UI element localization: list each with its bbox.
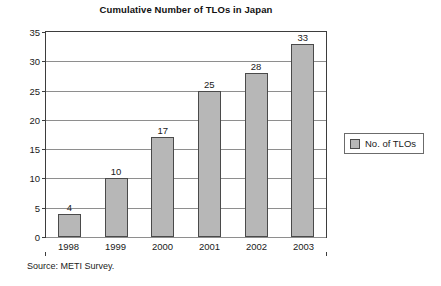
x-axis-tick-label: 1999 — [92, 241, 139, 252]
bar: 25 — [198, 91, 221, 237]
y-axis-tick-label: 5 — [35, 202, 40, 213]
plot-area: 05101520253035 41017252833 — [45, 31, 327, 238]
gridline — [46, 237, 326, 238]
legend-entry-label: No. of TLOs — [365, 138, 416, 149]
chart-legend: No. of TLOs — [344, 133, 424, 154]
x-axis-tick-label: 1998 — [45, 241, 92, 252]
y-axis-tick-label: 25 — [29, 85, 40, 96]
bar-slot: 10 — [93, 32, 140, 237]
x-axis: 199819992000200120022003 — [45, 241, 327, 252]
y-axis-tick-mark — [42, 237, 46, 238]
bar: 17 — [151, 137, 174, 237]
y-axis-tick-label: 0 — [35, 232, 40, 243]
x-axis-tick-label: 2003 — [280, 241, 327, 252]
y-axis-tick-label: 15 — [29, 144, 40, 155]
chart-title: Cumulative Number of TLOs in Japan — [45, 4, 327, 15]
bar: 4 — [58, 214, 81, 237]
bar-value-label: 33 — [297, 32, 308, 43]
bar: 10 — [105, 178, 128, 237]
x-axis-tick-label: 2000 — [139, 241, 186, 252]
bar-slot: 25 — [186, 32, 233, 237]
legend-swatch-icon — [350, 139, 360, 149]
bar-value-label: 28 — [251, 61, 262, 72]
x-axis-tick-mark — [45, 252, 46, 256]
bar-slot: 28 — [233, 32, 280, 237]
bar-value-label: 25 — [204, 79, 215, 90]
bar: 33 — [291, 44, 314, 237]
y-axis-tick-label: 10 — [29, 173, 40, 184]
y-axis-tick-label: 35 — [29, 27, 40, 38]
bar-slot: 17 — [139, 32, 186, 237]
bar: 28 — [245, 73, 268, 237]
source-note: Source: METI Survey. — [27, 261, 114, 271]
y-axis-tick-label: 30 — [29, 56, 40, 67]
x-axis-tick-label: 2001 — [186, 241, 233, 252]
bar-value-label: 4 — [67, 202, 72, 213]
bar-slot: 4 — [46, 32, 93, 237]
bar-value-label: 10 — [111, 166, 122, 177]
x-axis-tick-mark — [326, 252, 327, 256]
bars-layer: 41017252833 — [46, 32, 326, 237]
x-axis-tick-label: 2002 — [233, 241, 280, 252]
y-axis-tick-label: 20 — [29, 114, 40, 125]
bar-value-label: 17 — [157, 125, 168, 136]
bar-slot: 33 — [279, 32, 326, 237]
